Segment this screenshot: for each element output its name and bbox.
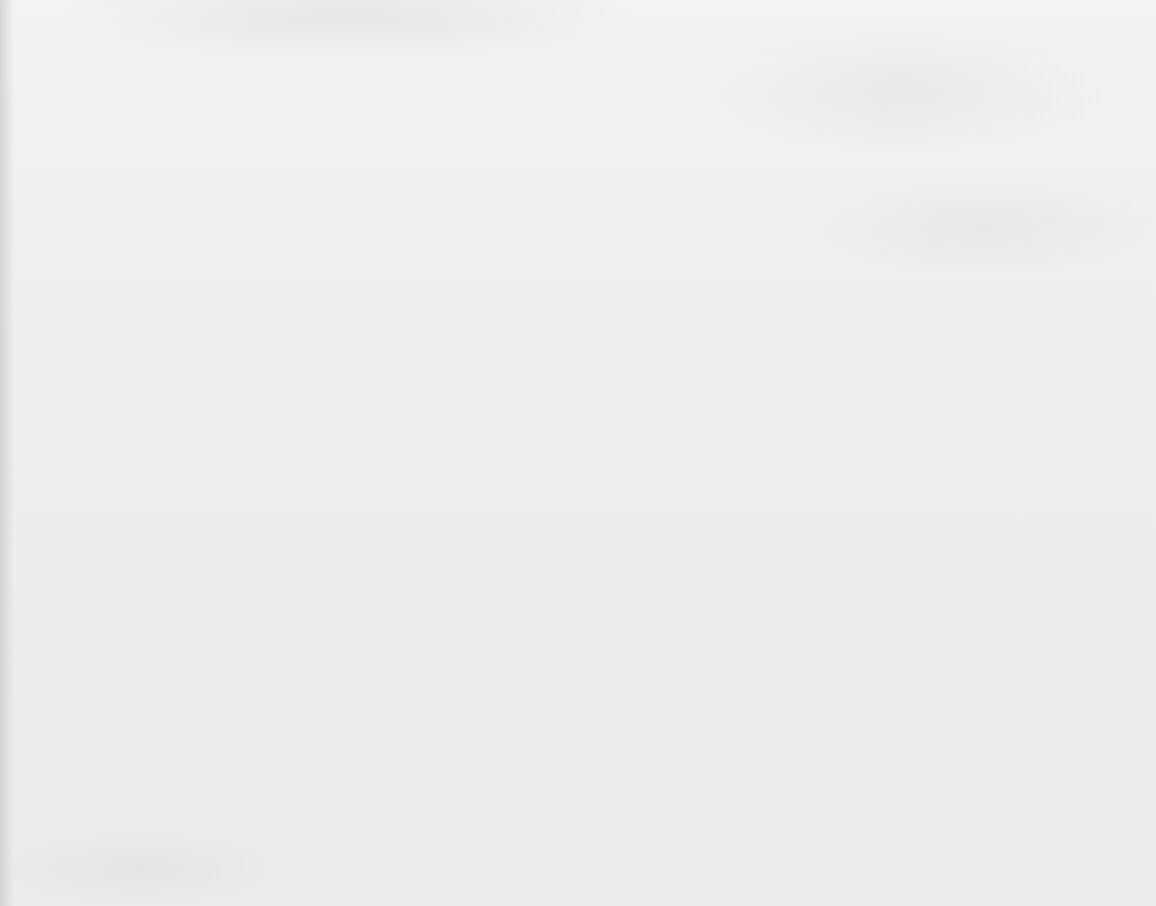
page-left-edge-shadow	[0, 0, 14, 906]
figure-page: The Long-Term Unemployment Rate Was Much…	[0, 0, 1156, 906]
